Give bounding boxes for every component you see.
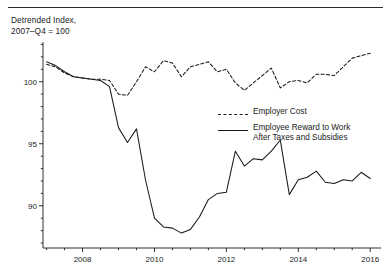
x-tick-label: 2008 [74, 255, 92, 264]
x-tick-label: 2010 [146, 255, 164, 264]
legend-item-employer-cost: Employer Cost [218, 107, 388, 120]
legend-item-employee-reward: Employee Reward to Work After Taxes and … [218, 123, 388, 143]
y-tick-label: 95 [28, 140, 37, 149]
x-tick-label: 2012 [217, 255, 235, 264]
series-line-employer-cost [47, 53, 371, 95]
legend-label-employee-reward: Employee Reward to Work After Taxes and … [253, 123, 350, 143]
chart-figure: Detrended Index, 2007–Q4 = 100 909510020… [0, 0, 391, 280]
chart-legend: Employer Cost Employee Reward to Work Af… [218, 107, 388, 146]
legend-line-dashed-icon [218, 110, 248, 120]
legend-line-solid-icon [218, 126, 248, 136]
series-line-employee-reward [47, 62, 371, 233]
x-tick-label: 2016 [361, 255, 379, 264]
legend-label-employer-cost: Employer Cost [253, 107, 307, 117]
y-tick-label: 100 [24, 78, 38, 87]
y-tick-label: 90 [28, 202, 37, 211]
x-tick-label: 2014 [289, 255, 307, 264]
